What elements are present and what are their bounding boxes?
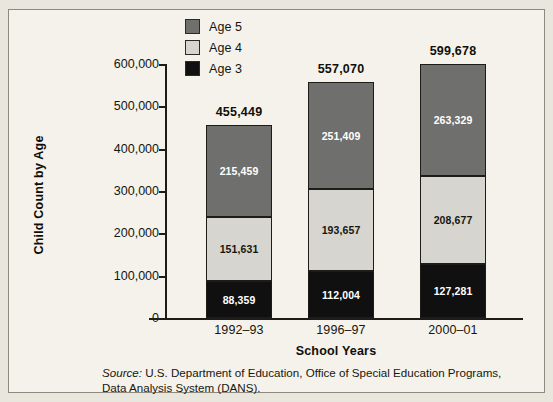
y-tick-label-400000: 400,000 — [63, 142, 159, 156]
bar-segment-label-age5-2000-01: 263,329 — [434, 114, 473, 126]
chart-figure: Age 5 Age 4 Age 3 Child Count by Age 600… — [9, 10, 546, 394]
bar-group-1996-97[interactable]: 557,070 251,409 193,657 112,004 — [308, 82, 374, 318]
bar-segment-age4-1996-97[interactable]: 193,657 — [308, 189, 374, 271]
bar-segment-label-age5-1992-93: 215,459 — [220, 165, 259, 177]
bar-segment-age5-2000-01[interactable]: 263,329 — [420, 64, 486, 176]
bar-segment-age3-1996-97[interactable]: 112,004 — [308, 271, 374, 318]
bar-segment-label-age3-2000-01: 127,281 — [434, 285, 473, 297]
plot-area: Child Count by Age 600,000 500,000 400,0… — [9, 10, 546, 394]
bar-segment-label-age4-1996-97: 193,657 — [322, 224, 361, 236]
x-axis-title: School Years — [149, 344, 523, 358]
bar-total-label-2000-01: 599,678 — [398, 44, 508, 58]
bar-group-2000-01[interactable]: 599,678 263,329 208,677 127,281 — [420, 64, 486, 318]
bar-segment-age5-1992-93[interactable]: 215,459 — [206, 125, 272, 217]
source-note: Source: U.S. Department of Education, Of… — [102, 365, 532, 395]
x-axis-label-2000-01: 2000–01 — [393, 323, 513, 337]
source-note-line-2: Data Analysis System (DANS). — [102, 380, 532, 395]
source-note-text-1: U.S. Department of Education, Office of … — [142, 366, 501, 379]
bar-segment-label-age3-1996-97: 112,004 — [322, 289, 360, 301]
y-tick-label-0: 0 — [63, 311, 159, 325]
figure-card: Age 5 Age 4 Age 3 Child Count by Age 600… — [8, 9, 545, 393]
bar-segment-age4-1992-93[interactable]: 151,631 — [206, 217, 272, 281]
bar-total-label-1996-97: 557,070 — [286, 62, 396, 76]
bar-segment-label-age5-1996-97: 251,409 — [322, 130, 361, 142]
y-tick-label-500000: 500,000 — [63, 99, 159, 113]
source-note-line-1: Source: U.S. Department of Education, Of… — [102, 365, 532, 380]
x-axis-line — [149, 318, 523, 320]
bar-segment-age3-1992-93[interactable]: 88,359 — [206, 281, 272, 318]
y-tick-label-200000: 200,000 — [63, 226, 159, 240]
bar-segment-age3-2000-01[interactable]: 127,281 — [420, 264, 486, 318]
bar-segment-age5-1996-97[interactable]: 251,409 — [308, 82, 374, 189]
y-axis-line — [165, 64, 167, 319]
source-note-prefix: Source: — [102, 366, 142, 379]
bar-segment-label-age3-1992-93: 88,359 — [223, 294, 256, 306]
x-axis-label-1996-97: 1996–97 — [281, 323, 401, 337]
y-axis-title: Child Count by Age — [32, 115, 46, 275]
bar-group-1992-93[interactable]: 455,449 215,459 151,631 88,359 — [206, 125, 272, 318]
y-tick-label-600000: 600,000 — [63, 57, 159, 71]
y-tick-label-300000: 300,000 — [63, 184, 159, 198]
y-tick-label-100000: 100,000 — [63, 269, 159, 283]
bar-total-label-1992-93: 455,449 — [184, 105, 294, 119]
bar-segment-label-age4-2000-01: 208,677 — [434, 214, 473, 226]
bar-segment-label-age4-1992-93: 151,631 — [220, 243, 259, 255]
bar-segment-age4-2000-01[interactable]: 208,677 — [420, 176, 486, 264]
